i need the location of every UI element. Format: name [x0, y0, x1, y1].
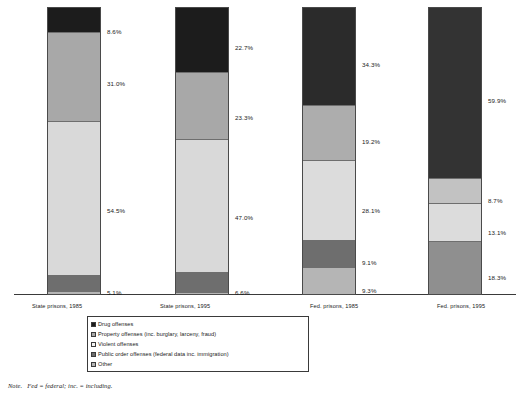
bar-segment-public-order[interactable] [176, 273, 228, 293]
legend-swatch-icon [91, 352, 96, 357]
segment-value-label: 22.7% [235, 44, 253, 51]
bar-segment-public-order[interactable] [303, 241, 355, 268]
segment-value-label: 6.6% [235, 289, 250, 296]
legend-label: Public order offenses (federal data inc.… [98, 351, 229, 357]
segment-value-label: 34.3% [362, 61, 380, 68]
segment-value-label: 13.1% [488, 229, 506, 236]
legend-swatch-icon [91, 342, 96, 347]
bar-group-fed-1995: 59.9% 8.7% 13.1% 18.3% [428, 7, 482, 295]
segment-value-label: 28.1% [362, 207, 380, 214]
segment-value-label: 31.0% [107, 80, 125, 87]
segment-value-label: 23.3% [235, 114, 253, 121]
legend-label: Drug offenses [98, 321, 133, 327]
legend-label: Property offenses (inc. burglary, larcen… [98, 331, 216, 337]
bar-group-fed-1985: 34.3% 19.2% 28.1% 9.1% 9.3% [302, 7, 356, 295]
legend-item-property[interactable]: Property offenses (inc. burglary, larcen… [91, 329, 305, 339]
legend-item-other[interactable]: Other [91, 359, 305, 369]
bar-segment-other[interactable] [176, 293, 228, 294]
legend-swatch-icon [91, 322, 96, 327]
category-label-fed-1985: Fed. prisons, 1985 [310, 303, 358, 309]
chart-note: Note. Fed = federal; inc. = including. [8, 382, 112, 389]
bar-segment-property[interactable] [429, 179, 481, 205]
bar-segment-violent[interactable] [429, 204, 481, 242]
segment-value-label: 9.3% [362, 287, 377, 294]
bar-group-state-1995: 22.7% 23.3% 47.0% 6.6% [175, 7, 229, 295]
legend-item-public-order[interactable]: Public order offenses (federal data inc.… [91, 349, 305, 359]
segment-value-label: 5.1% [107, 289, 122, 296]
note-prefix: Note. [8, 382, 22, 389]
bar-segment-other[interactable] [303, 268, 355, 294]
segment-value-label: 47.0% [235, 214, 253, 221]
segment-value-label: 9.1% [362, 259, 377, 266]
category-label-state-1995: State prisons, 1995 [160, 303, 210, 309]
bar-segment-drug[interactable] [176, 8, 228, 73]
segment-value-label: 19.2% [362, 138, 380, 145]
stacked-bar-chart: 8.6% 31.0% 54.5% 5.1% State prisons, 198… [0, 0, 530, 300]
segment-value-label: 54.5% [107, 207, 125, 214]
category-label-state-1985: State prisons, 1985 [32, 303, 82, 309]
note-text: Fed = federal; inc. = including. [27, 382, 112, 389]
chart-legend: Drug offenses Property offenses (inc. bu… [87, 316, 309, 372]
bar-segment-violent[interactable] [48, 122, 100, 277]
segment-value-label: 18.3% [488, 274, 506, 281]
legend-swatch-icon [91, 362, 96, 367]
stacked-bar[interactable] [428, 7, 482, 295]
stacked-bar[interactable] [47, 7, 101, 295]
legend-swatch-icon [91, 332, 96, 337]
bar-segment-drug[interactable] [429, 8, 481, 179]
stacked-bar[interactable] [302, 7, 356, 295]
stacked-bar[interactable] [175, 7, 229, 295]
bar-segment-drug[interactable] [303, 8, 355, 106]
bar-segment-property[interactable] [303, 106, 355, 161]
legend-label: Violent offenses [98, 341, 138, 347]
bar-segment-public-order[interactable] [429, 242, 481, 294]
bar-segment-property[interactable] [176, 73, 228, 140]
segment-value-label: 8.7% [488, 197, 503, 204]
category-label-fed-1995: Fed. prisons, 1995 [437, 303, 485, 309]
bar-segment-property[interactable] [48, 33, 100, 121]
bar-segment-violent[interactable] [303, 161, 355, 241]
bar-segment-public-order[interactable] [48, 276, 100, 291]
segment-value-label: 8.6% [107, 28, 122, 35]
legend-item-violent[interactable]: Violent offenses [91, 339, 305, 349]
legend-label: Other [98, 361, 112, 367]
legend-item-drug[interactable]: Drug offenses [91, 319, 305, 329]
bar-group-state-1985: 8.6% 31.0% 54.5% 5.1% [47, 7, 101, 295]
bar-segment-violent[interactable] [176, 140, 228, 274]
bar-segment-other[interactable] [48, 292, 100, 294]
segment-value-label: 59.9% [488, 97, 506, 104]
bar-segment-drug[interactable] [48, 8, 100, 33]
